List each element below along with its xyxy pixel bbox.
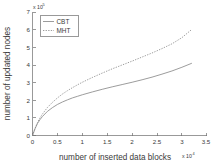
x-tick-label-0: 0 (31, 138, 35, 145)
y-tick-label-4: 4 (27, 61, 31, 68)
x-axis-ticks (33, 133, 207, 136)
x-multiplier-base: x 10 (182, 153, 192, 159)
series-line-cbt (33, 63, 192, 135)
x-multiplier-exponent: 4 (193, 151, 196, 156)
series-group (33, 29, 192, 135)
x-tick-label-4: 2 (130, 138, 134, 145)
legend-label-mht: MHT (57, 27, 71, 34)
y-tick-label-1: 1 (27, 114, 31, 121)
y-multiplier-exponent: 5 (43, 2, 45, 7)
series-line-mht (33, 29, 192, 135)
y-tick-label-2: 2 (27, 97, 31, 104)
x-tick-label-5: 2.5 (153, 138, 162, 145)
x-tick-label-2: 1 (81, 138, 85, 145)
y-multiplier-base: x 10 (33, 4, 43, 10)
legend: CBT MHT (41, 16, 79, 37)
line-chart: 0 1 2 3 4 5 6 7 x 10 5 0 0.5 1 1.5 2 2.5 (0, 0, 215, 168)
x-axis-multiplier: x 10 4 (182, 151, 196, 159)
y-tick-label-5: 5 (27, 44, 31, 51)
chart-figure: 0 1 2 3 4 5 6 7 x 10 5 0 0.5 1 1.5 2 2.5 (0, 0, 215, 168)
y-tick-label-7: 7 (27, 8, 31, 15)
y-tick-label-3: 3 (27, 79, 31, 86)
legend-label-cbt: CBT (57, 18, 70, 25)
x-tick-label-6: 3 (180, 138, 184, 145)
x-tick-label-7: 3.5 (202, 138, 211, 145)
y-axis-multiplier: x 10 5 (33, 2, 45, 10)
x-tick-label-1: 0.5 (53, 138, 62, 145)
x-axis-title: number of inserted data blocks (59, 153, 171, 162)
x-tick-label-3: 1.5 (103, 138, 112, 145)
y-axis-title: number of updated nodes (3, 27, 12, 120)
y-axis-ticks (33, 12, 36, 135)
y-tick-label-6: 6 (27, 26, 31, 33)
